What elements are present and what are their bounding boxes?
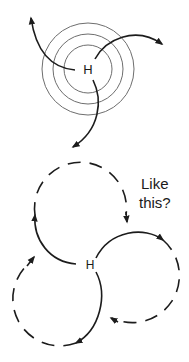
lower-circle-solid-arc xyxy=(76,272,102,343)
top-diagram: H xyxy=(31,18,162,147)
upper-circle-solid-arc xyxy=(35,215,76,264)
question-line-2: this? xyxy=(139,194,171,211)
bottom-center-label: H xyxy=(86,258,95,272)
bottom-diagram: H Like this? xyxy=(13,162,180,346)
diagram-canvas: H H Like this? xyxy=(0,0,189,362)
arrow-upper-left-icon xyxy=(31,18,75,70)
lower-circle-arrow-icon xyxy=(27,257,34,266)
right-circle-solid-arc xyxy=(96,232,163,258)
upper-circle-dashed-arc xyxy=(35,162,127,215)
right-circle-dashed-arc xyxy=(112,240,179,323)
question-line-1: Like xyxy=(141,175,169,192)
upper-circle-arrow-icon xyxy=(126,212,127,222)
lower-circle-dashed-arc xyxy=(13,261,76,346)
top-center-label: H xyxy=(83,62,92,77)
